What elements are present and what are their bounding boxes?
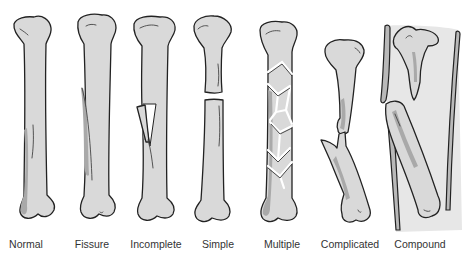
bone-fissure [78,14,116,218]
fracture-types-diagram [0,0,474,265]
bone-simple [194,16,231,222]
bone-multiple [260,21,297,221]
bone-compound [381,25,462,232]
bone-normal [14,16,55,218]
bone-complicated [321,40,370,222]
bone-incomplete [134,16,175,220]
